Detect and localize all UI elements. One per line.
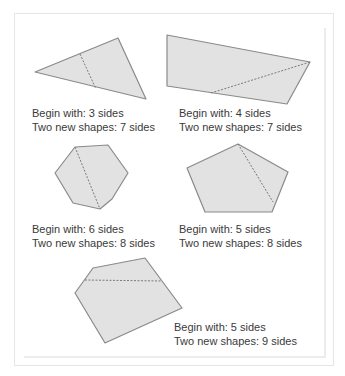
figure-hexagon: [55, 145, 128, 209]
caption-triangle: Begin with: 3 sides Two new shapes: 7 si…: [32, 106, 155, 134]
figure-triangle: [35, 38, 146, 99]
result-label: Two new shapes: 7 sides: [32, 120, 155, 134]
caption-pentagon: Begin with: 5 sides Two new shapes: 8 si…: [179, 222, 302, 250]
pentagon-shape: [75, 258, 182, 343]
result-label: Two new shapes: 9 sides: [174, 334, 297, 348]
quadrilateral-shape: [167, 35, 310, 104]
figure-pentagon: [187, 144, 288, 212]
result-label: Two new shapes: 7 sides: [179, 120, 302, 134]
hexagon-shape: [55, 145, 128, 209]
triangle-shape: [35, 38, 146, 99]
caption-pentagon-irregular: Begin with: 5 sides Two new shapes: 9 si…: [174, 320, 297, 348]
begin-label: Begin with: 6 sides: [32, 222, 155, 236]
figure-pentagon-irregular: [75, 258, 182, 343]
begin-label: Begin with: 5 sides: [174, 320, 297, 334]
begin-label: Begin with: 4 sides: [179, 106, 302, 120]
begin-label: Begin with: 5 sides: [179, 222, 302, 236]
result-label: Two new shapes: 8 sides: [32, 236, 155, 250]
caption-hexagon: Begin with: 6 sides Two new shapes: 8 si…: [32, 222, 155, 250]
result-label: Two new shapes: 8 sides: [179, 236, 302, 250]
figure-quadrilateral: [167, 35, 310, 104]
caption-quadrilateral: Begin with: 4 sides Two new shapes: 7 si…: [179, 106, 302, 134]
begin-label: Begin with: 3 sides: [32, 106, 155, 120]
